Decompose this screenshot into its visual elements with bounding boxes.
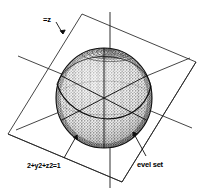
function-label: =z (43, 15, 51, 24)
sphere-equation-label: 2+y2+z2=1 (27, 162, 60, 169)
figure-canvas: =z 2+y2+z2=1 evel set (0, 0, 200, 196)
level-set-label: evel set (137, 160, 163, 169)
sphere (56, 41, 152, 153)
